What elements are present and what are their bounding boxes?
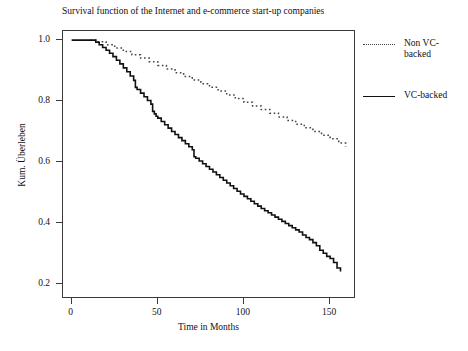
y-tick-label: 0.2 <box>24 278 50 288</box>
x-tick-mark <box>243 298 244 304</box>
x-tick-label: 150 <box>309 307 349 317</box>
plot-canvas <box>63 31 356 299</box>
survival-function-figure: Survival function of the Internet and e-… <box>0 0 468 351</box>
x-tick-mark <box>157 298 158 304</box>
y-tick-mark <box>56 161 62 162</box>
x-tick-label: 50 <box>137 307 177 317</box>
chart-title: Survival function of the Internet and e-… <box>62 5 362 17</box>
legend-label: VC-backed <box>404 90 468 101</box>
x-tick-label: 100 <box>223 307 263 317</box>
y-tick-label: 0.8 <box>24 95 50 105</box>
legend-item-non-vc-backed: Non VC-backed <box>361 38 468 68</box>
y-tick-mark <box>56 100 62 101</box>
y-tick-label: 0.6 <box>24 156 50 166</box>
y-tick-label: 1.0 <box>24 34 50 44</box>
x-tick-mark <box>71 298 72 304</box>
legend-item-vc-backed: VC-backed <box>361 90 468 120</box>
series-paths <box>72 40 346 271</box>
x-tick-label: 0 <box>51 307 91 317</box>
y-tick-mark <box>56 39 62 40</box>
y-tick-label: 0.4 <box>24 217 50 227</box>
x-tick-mark <box>329 298 330 304</box>
y-tick-mark <box>56 283 62 284</box>
legend-line-sample-icon <box>363 96 395 99</box>
plot-area <box>62 30 355 298</box>
legend-line-sample-icon <box>363 44 395 47</box>
x-axis-title: Time in Months <box>62 322 355 332</box>
legend-label: Non VC-backed <box>404 38 468 60</box>
series-line-vc-backed <box>72 40 341 271</box>
y-tick-mark <box>56 222 62 223</box>
series-line-non-vc-backed <box>91 40 346 147</box>
